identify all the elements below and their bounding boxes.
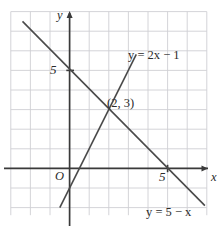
equation-label-line-2: y = 5 − x [146,206,191,219]
intersection-point-label: (2, 3) [107,97,134,110]
origin-label: O [55,170,64,183]
graph-figure: 5 5 O x y y = 2x − 1 y = 5 − x (2, 3) [0,0,224,232]
equation-label-line-1: y = 2x − 1 [128,49,180,62]
line-y-equals-2x-minus-1 [60,54,137,207]
coordinate-plane [0,0,224,232]
y-axis-tick-label-5: 5 [50,63,57,76]
grid-lines [11,12,207,216]
tick-marks [66,70,167,172]
x-axis-label: x [211,171,217,184]
y-axis-label: y [57,9,63,22]
x-axis-tick-label-5: 5 [159,170,166,183]
